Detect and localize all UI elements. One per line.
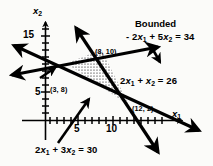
- c3-var1: x: [40, 144, 45, 155]
- axis-x2: [41, 22, 50, 140]
- c2-var1: x: [125, 75, 130, 86]
- c1-var2: x: [163, 31, 168, 42]
- c2-mid: +: [135, 75, 146, 86]
- chart-title: Bounded: [135, 19, 176, 29]
- y-axis-label: x2: [33, 6, 42, 16]
- y-tick-label-5: 5: [35, 87, 41, 97]
- c1-sub2: 2: [169, 36, 173, 43]
- vertex-label-12-2: (12, 2): [132, 105, 153, 112]
- c3-sub2: 2: [72, 149, 76, 156]
- c1-sub1: 1: [143, 36, 147, 43]
- constraint-label-2x1-x2-26: 2x1 + x2 = 26: [120, 76, 177, 86]
- c2-tail: = 26: [155, 75, 177, 86]
- c3-var2: x: [66, 144, 71, 155]
- x-tick-label-10: 10: [106, 124, 117, 134]
- c3-mid: + 3: [50, 144, 67, 155]
- y-tick-label-15: 15: [23, 30, 34, 40]
- x-tick-label-5: 5: [74, 124, 80, 134]
- c3-sub1: 1: [46, 149, 50, 156]
- c3-tail: = 30: [76, 144, 98, 155]
- c1-var1: x: [137, 31, 142, 42]
- vertex-label-3-8: (3, 8): [50, 86, 67, 93]
- constraint-label-neg2x1-5x2-34: - 2x1 + 5x2 = 34: [126, 32, 194, 42]
- c1-lead: - 2: [126, 31, 137, 42]
- linear-programming-graph: Bounded x2 x1 15 5 5 10 (8, 10) (3, 8) (…: [0, 0, 213, 166]
- y-axis-label-sub: 2: [38, 10, 42, 17]
- x-axis-label-sub: 1: [177, 113, 181, 120]
- c1-mid: + 5: [147, 31, 164, 42]
- constraint-label-2x1-3x2-30: 2x1 + 3x2 = 30: [35, 145, 97, 155]
- x-axis-label: x1: [172, 109, 181, 119]
- plot-canvas: [0, 0, 213, 166]
- c1-tail: = 34: [173, 31, 195, 42]
- c2-sub2: 2: [151, 80, 155, 87]
- vertex-label-8-10: (8, 10): [95, 48, 116, 55]
- c2-sub1: 1: [131, 80, 135, 87]
